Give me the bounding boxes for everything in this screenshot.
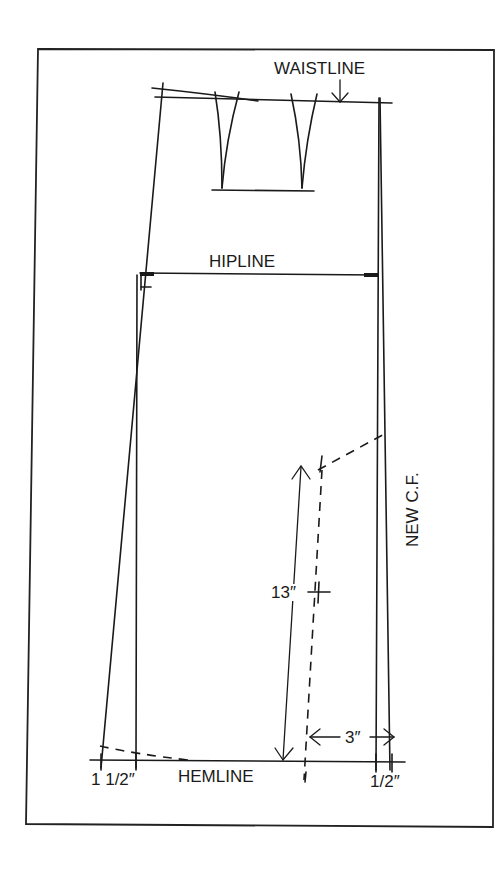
side-seam-original bbox=[136, 275, 137, 768]
center-front-original bbox=[376, 98, 379, 770]
midpoint-cross-v bbox=[318, 582, 319, 603]
hipline-label: HIPLINE bbox=[209, 253, 275, 270]
diagram-frame bbox=[26, 49, 494, 827]
dart-left-leg-b bbox=[222, 92, 239, 188]
new-center-front bbox=[380, 98, 390, 770]
waistline-label: WAISTLINE bbox=[274, 60, 365, 77]
hemline bbox=[90, 760, 405, 762]
left-extension-label: 1 1/2″ bbox=[91, 771, 135, 788]
dart-right-leg-a bbox=[291, 94, 302, 188]
dart-base-line bbox=[212, 190, 314, 191]
slash-top-tick bbox=[320, 456, 322, 472]
dart-left-leg-a bbox=[215, 92, 222, 188]
hem-curve-left bbox=[100, 746, 188, 760]
slash-line bbox=[304, 470, 322, 780]
side-seam-extended bbox=[101, 83, 163, 768]
hipline-corner-right bbox=[364, 273, 378, 277]
hipline-corner-left bbox=[140, 272, 154, 276]
length-measure-label: 13″ bbox=[271, 584, 298, 601]
right-extension-label: 1/2″ bbox=[370, 773, 400, 790]
skirt-pattern-diagram bbox=[0, 0, 497, 870]
new-cf-label: NEW C.F. bbox=[404, 472, 421, 547]
flare-measure-label: 3″ bbox=[343, 729, 362, 746]
dart-right-leg-b bbox=[302, 94, 317, 188]
slash-tick-below bbox=[305, 772, 306, 782]
hipline bbox=[140, 273, 378, 275]
waistline bbox=[155, 97, 392, 103]
hemline-label: HEMLINE bbox=[178, 768, 254, 785]
length-dimension-line bbox=[283, 467, 301, 760]
